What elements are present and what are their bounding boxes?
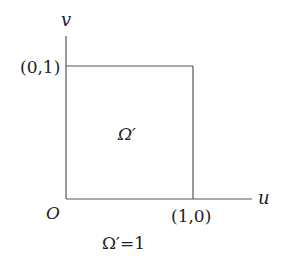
v-axis-label: v (61, 9, 71, 30)
origin-label: O (46, 203, 60, 223)
point-1-0-label: (1,0) (171, 206, 211, 226)
caption: Ω′=1 (102, 233, 145, 253)
unit-square-diagram: v u (0,1) (1,0) O Ω′ Ω′=1 (0, 0, 282, 267)
u-axis-label: u (258, 187, 270, 208)
point-0-1-label: (0,1) (20, 57, 60, 77)
region-label: Ω′ (117, 124, 136, 144)
